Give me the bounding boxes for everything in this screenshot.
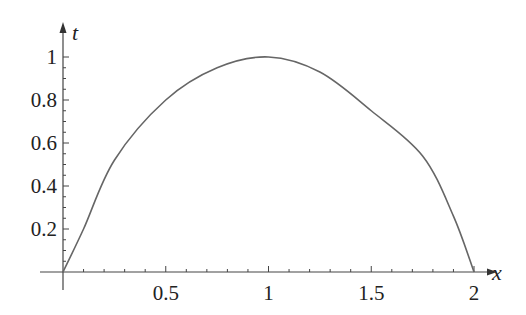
y-axis-label: t (72, 20, 79, 45)
x-tick-label: 2 (469, 281, 480, 305)
y-axis-arrow-icon (60, 22, 67, 33)
x-tick-label: 1.5 (358, 281, 384, 305)
y-tick-label: 1 (47, 45, 58, 69)
x-axis-label: x (491, 260, 502, 285)
y-tick-label: 0.4 (31, 174, 58, 198)
chart: 0.511.520.20.40.60.81 x t (0, 0, 526, 315)
axes (40, 22, 497, 290)
y-tick-label: 0.6 (31, 131, 57, 155)
y-tick-label: 0.2 (31, 217, 57, 241)
x-tick-label: 0.5 (153, 281, 179, 305)
tick-labels: 0.511.520.20.40.60.81 (31, 45, 480, 305)
x-tick-label: 1 (263, 281, 274, 305)
ticks (63, 57, 474, 272)
data-curve (63, 57, 474, 272)
y-tick-label: 0.8 (31, 88, 57, 112)
